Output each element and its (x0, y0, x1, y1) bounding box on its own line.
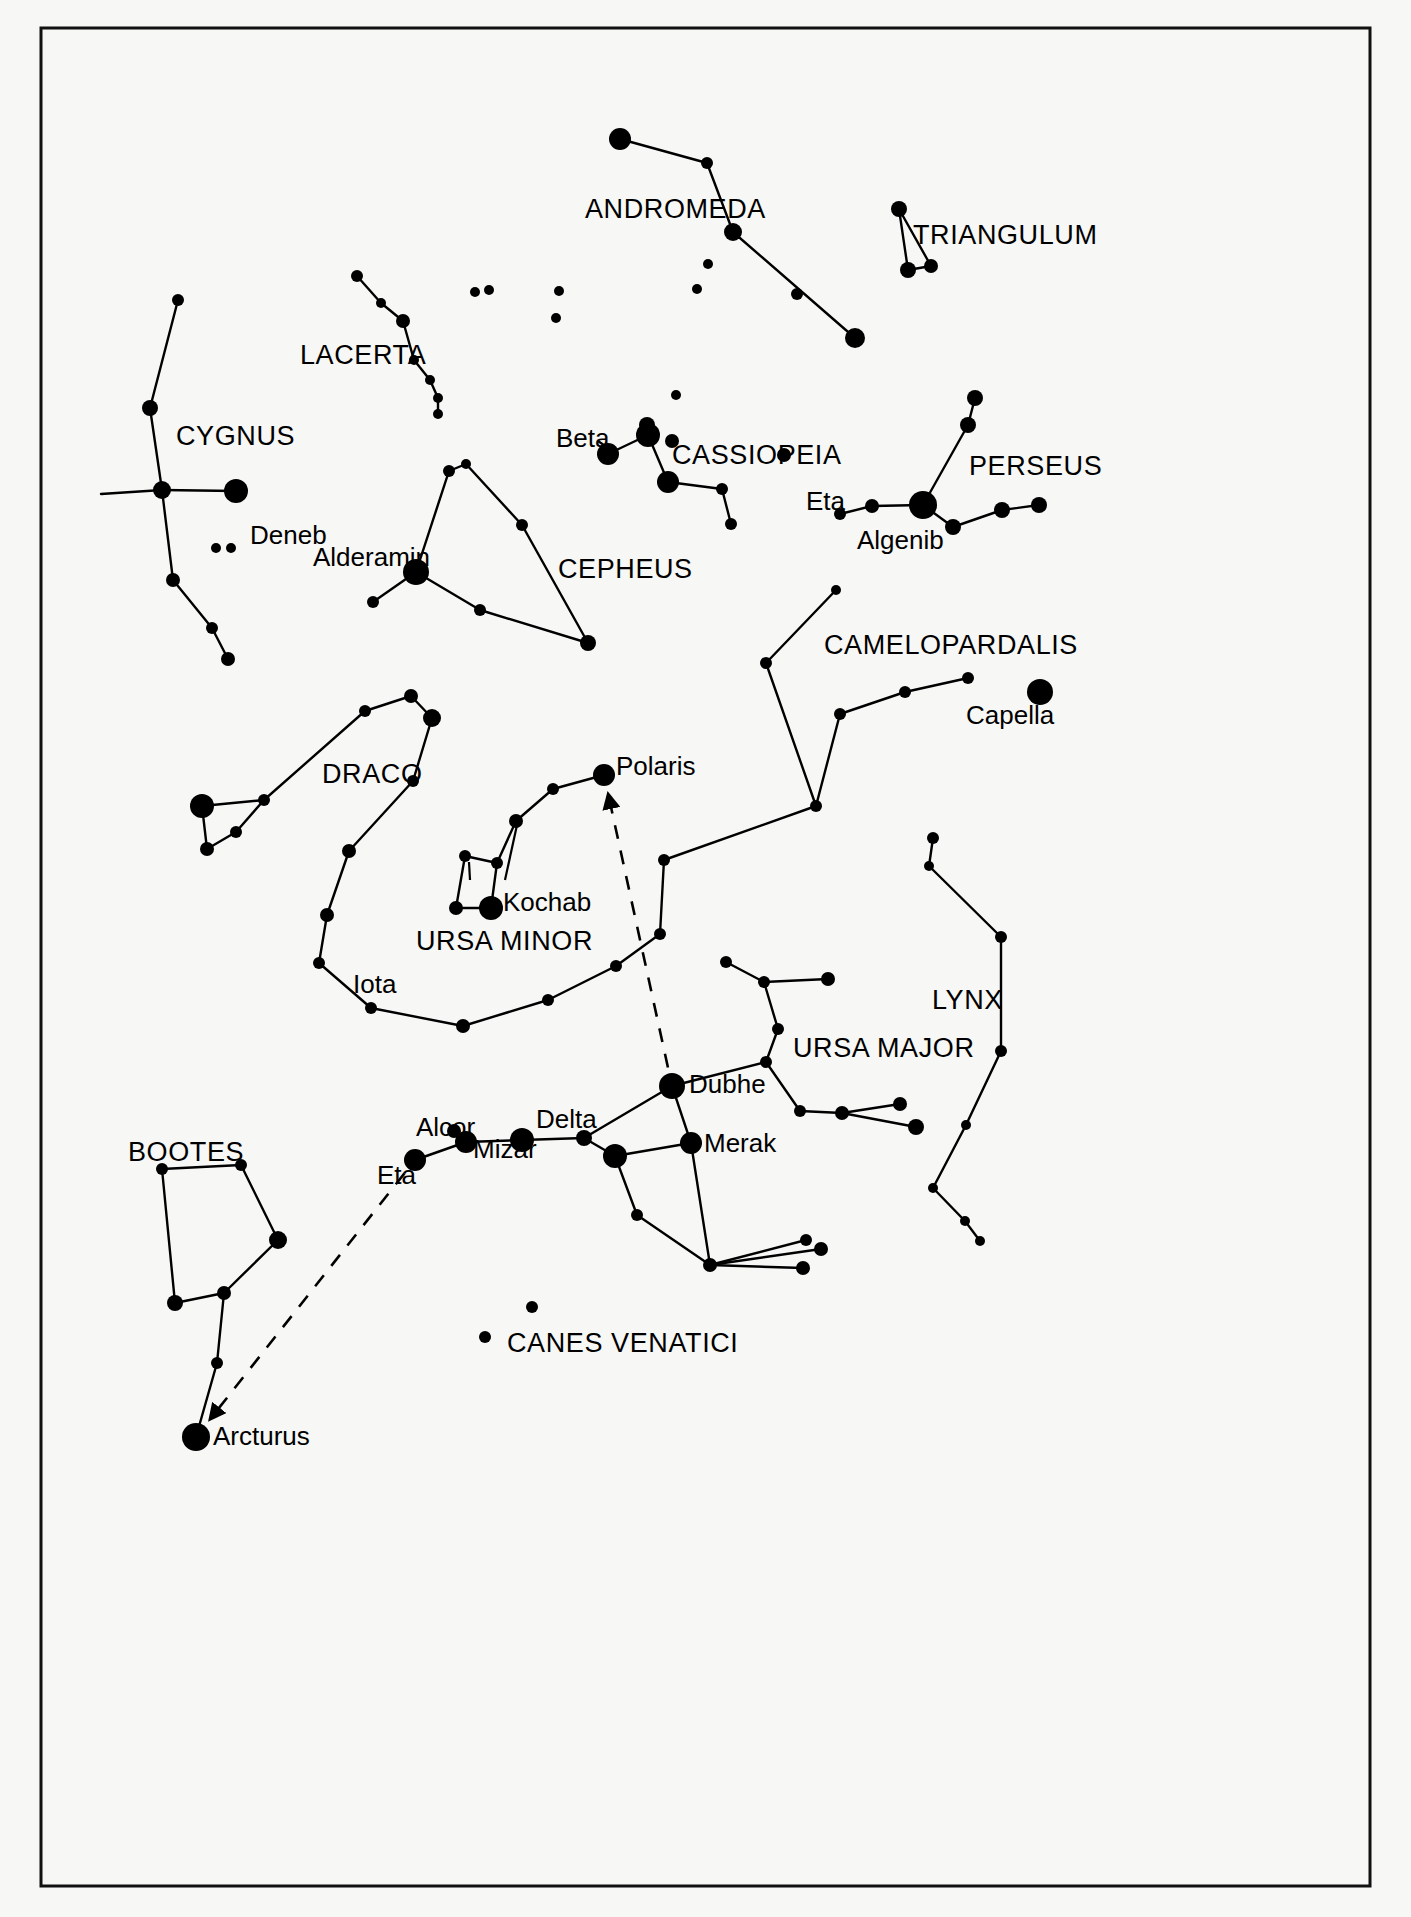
star-point (636, 423, 660, 447)
constellation-label: CASSIOPEIA (672, 440, 842, 470)
star-point (190, 794, 214, 818)
constellation-line (766, 1062, 800, 1111)
star-point (810, 800, 822, 812)
star-label: Arcturus (213, 1421, 310, 1451)
star-point (834, 708, 846, 720)
star-point (554, 286, 564, 296)
star-label: Mizar (473, 1134, 537, 1164)
pointer-lines-layer (211, 796, 668, 1419)
star-point (182, 1423, 210, 1451)
constellation-line (327, 851, 349, 915)
constellation-line (466, 464, 522, 525)
constellation-line (463, 1000, 548, 1026)
constellation-line (173, 580, 212, 628)
constellation-label: LYNX (932, 985, 1003, 1015)
star-point (342, 844, 356, 858)
star-point (449, 901, 463, 915)
constellation-line (224, 1240, 278, 1293)
star-point (831, 585, 841, 595)
star-point (865, 499, 879, 513)
constellation-line (516, 789, 553, 821)
constellation-line (766, 663, 816, 806)
constellation-label: CEPHEUS (558, 554, 693, 584)
star-point (423, 709, 441, 727)
star-point (359, 705, 371, 717)
star-point (142, 400, 158, 416)
constellation-line (660, 860, 664, 934)
star-point (725, 518, 737, 530)
star-point (716, 483, 728, 495)
star-point (461, 459, 471, 469)
star-point (960, 417, 976, 433)
star-point (167, 1295, 183, 1311)
constellation-label: DRACO (322, 759, 423, 789)
star-point (509, 814, 523, 828)
star-point (593, 764, 615, 786)
star-point (995, 931, 1007, 943)
star-label: Algenib (857, 525, 944, 555)
constellation-line (726, 962, 764, 982)
star-label: Beta (556, 423, 610, 453)
star-point (479, 896, 503, 920)
star-point (351, 270, 363, 282)
constellation-line (616, 934, 660, 966)
star-point (320, 908, 334, 922)
constellation-line (620, 139, 707, 163)
star-point (760, 1056, 772, 1068)
star-point (551, 313, 561, 323)
constellation-line (150, 408, 162, 490)
stars-layer (142, 128, 1053, 1451)
star-label: Dubhe (689, 1069, 766, 1099)
star-point (603, 1144, 627, 1168)
star-point (760, 657, 772, 669)
constellation-line (584, 1086, 672, 1138)
constellation-lines-layer (101, 139, 1039, 1437)
star-point (230, 826, 242, 838)
constellation-line (816, 714, 840, 806)
star-point (609, 128, 631, 150)
star-point (580, 635, 596, 651)
constellation-line (764, 982, 778, 1029)
constellation-line (733, 232, 855, 338)
star-point (516, 519, 528, 531)
star-point (479, 1331, 491, 1343)
constellation-line (319, 915, 327, 963)
constellation-line (217, 1293, 224, 1363)
chart-border (41, 28, 1370, 1886)
star-point (891, 201, 907, 217)
star-point (491, 857, 503, 869)
star-point (206, 622, 218, 634)
star-point (470, 287, 480, 297)
star-point (172, 294, 184, 306)
constellation-line (664, 806, 816, 860)
star-chart-canvas: ANDROMEDATRIANGULUMLACERTACYGNUSCASSIOPE… (0, 0, 1411, 1917)
star-point (909, 491, 937, 519)
star-point (724, 223, 742, 241)
star-point (703, 1258, 717, 1272)
constellation-line (150, 300, 178, 408)
star-label: Merak (704, 1128, 777, 1158)
constellation-line (905, 678, 968, 692)
constellation-line (349, 781, 413, 851)
star-point (200, 842, 214, 856)
star-point (703, 259, 713, 269)
star-point (631, 1209, 643, 1221)
star-point (772, 1023, 784, 1035)
star-point (659, 1073, 685, 1099)
constellation-line (933, 1125, 966, 1188)
star-point (258, 794, 270, 806)
star-point (899, 686, 911, 698)
star-point (433, 393, 443, 403)
star-point (658, 854, 670, 866)
star-label: Delta (536, 1104, 597, 1134)
constellation-line (637, 1215, 710, 1265)
constellation-line (691, 1143, 710, 1265)
star-point (654, 928, 666, 940)
star-point (814, 1242, 828, 1256)
constellation-line (162, 490, 173, 580)
star-point (224, 479, 248, 503)
star-point (893, 1097, 907, 1111)
star-point (459, 850, 471, 862)
star-point (960, 1216, 970, 1226)
star-point (367, 596, 379, 608)
